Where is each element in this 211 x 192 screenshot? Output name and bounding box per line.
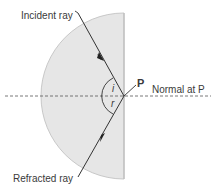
point-p-label: P	[137, 77, 144, 89]
incident-label-leader	[75, 11, 78, 13]
p-leader-line	[124, 85, 136, 96]
incident-ray-label: Incident ray	[21, 10, 73, 21]
refraction-diagram: i r P Normal at P Incident ray Refracted…	[0, 0, 211, 192]
refracted-ray-label: Refracted ray	[13, 173, 73, 184]
normal-label: Normal at P	[152, 84, 205, 95]
